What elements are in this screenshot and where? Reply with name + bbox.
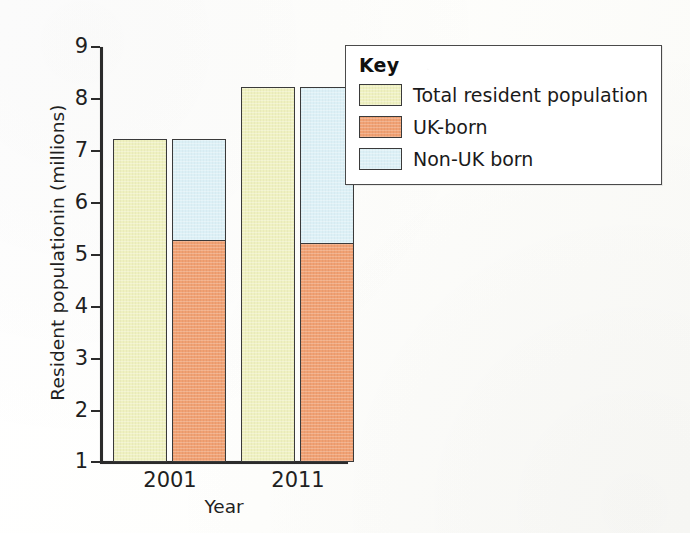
bar-2001-non-uk-born-segment (173, 140, 225, 241)
y-tick-4 (91, 306, 100, 308)
legend-box: Key Total resident population UK-born No… (345, 45, 662, 185)
y-tick-label-1: 1 (62, 451, 88, 472)
bar-2001-composition (172, 139, 226, 462)
x-axis-title: Year (100, 496, 348, 517)
bar-2001-uk-born-segment (173, 241, 225, 461)
y-tick-3 (91, 358, 100, 360)
legend-label-total-resident-population: Total resident population (413, 83, 648, 107)
y-tick-1 (91, 461, 100, 463)
legend-swatch-uk-born (359, 116, 402, 138)
legend-swatch-non-uk-born (359, 148, 402, 170)
y-tick-8 (91, 98, 100, 100)
legend-swatch-total-resident-population (359, 84, 402, 106)
legend-title: Key (359, 54, 399, 76)
y-tick-5 (91, 254, 100, 256)
y-tick-label-9: 9 (62, 36, 88, 57)
y-tick-7 (91, 150, 100, 152)
chart-screenshot: 9 8 7 6 5 4 3 2 1 Resident populationin … (0, 0, 690, 533)
x-tick-label-2011: 2011 (260, 468, 336, 492)
y-axis-title: Resident populationin (millions) (47, 88, 68, 418)
y-tick-9 (91, 46, 100, 48)
legend-label-uk-born: UK-born (413, 115, 487, 139)
bar-2011-uk-born-segment (301, 244, 353, 461)
bar-2011-total-resident-population (241, 87, 295, 462)
plot-area: 9 8 7 6 5 4 3 2 1 Resident populationin … (0, 0, 690, 533)
legend-label-non-uk-born: Non-UK born (413, 147, 533, 171)
y-tick-2 (91, 410, 100, 412)
x-tick-label-2001: 2001 (132, 468, 208, 492)
bar-2001-total-resident-population (113, 139, 167, 462)
y-tick-6 (91, 202, 100, 204)
y-axis-line (100, 47, 103, 463)
